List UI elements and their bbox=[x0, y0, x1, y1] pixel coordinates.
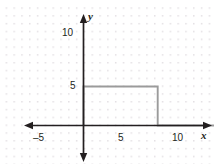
x-axis-label: x bbox=[201, 130, 207, 141]
y-tick-label-10: 10 bbox=[62, 28, 73, 38]
x-tick-label-minus-5: –5 bbox=[33, 133, 44, 143]
x-axis bbox=[24, 122, 212, 129]
x-tick-label-5: 5 bbox=[118, 133, 124, 143]
step-function-curve bbox=[84, 87, 215, 126]
x-tick-label-10: 10 bbox=[172, 133, 183, 143]
y-axis-label: y bbox=[88, 11, 93, 22]
y-axis bbox=[80, 14, 87, 162]
y-tick-label-5: 5 bbox=[70, 81, 76, 91]
coordinate-plane-figure: 10 5 –5 5 10 x y bbox=[0, 0, 219, 168]
